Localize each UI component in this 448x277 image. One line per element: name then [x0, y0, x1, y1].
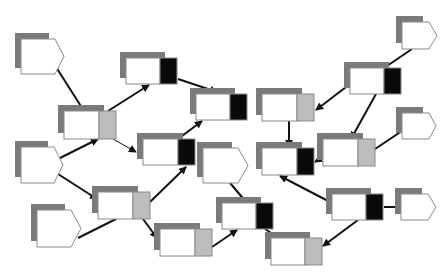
pentagon-shape [37, 210, 81, 247]
process-node-b[interactable] [58, 105, 116, 139]
node-port-gray[interactable] [99, 111, 116, 139]
process-node-f[interactable] [92, 186, 150, 219]
node-port-black[interactable] [297, 148, 314, 175]
process-node-e[interactable] [137, 133, 195, 165]
process-node-p[interactable] [326, 188, 383, 220]
node-port-black[interactable] [366, 194, 383, 220]
process-node-j[interactable] [256, 88, 314, 121]
process-node-k[interactable] [256, 142, 314, 175]
process-node-i[interactable] [216, 197, 273, 229]
node-port-black[interactable] [160, 58, 177, 84]
pentagon-shape [21, 147, 63, 183]
source-node-q[interactable] [395, 188, 436, 220]
node-body [323, 139, 358, 166]
process-node-n[interactable] [317, 133, 375, 166]
node-body [332, 194, 366, 220]
flow-diagram [0, 0, 448, 277]
shapes-layer [15, 16, 437, 265]
node-body [143, 139, 178, 165]
process-node-c[interactable] [120, 52, 177, 84]
pentagon-shape [402, 113, 436, 139]
node-port-gray[interactable] [195, 229, 212, 256]
edge-b-2 [113, 139, 136, 152]
source-node-t[interactable] [31, 204, 81, 247]
node-body [126, 58, 160, 84]
node-port-black[interactable] [178, 139, 195, 165]
pentagon-shape [401, 194, 436, 220]
edge-s-4 [58, 174, 97, 199]
edge-p-20 [323, 220, 358, 246]
source-node-m[interactable] [396, 107, 436, 139]
node-port-black[interactable] [230, 94, 247, 120]
node-body [222, 203, 256, 229]
edge-g-10 [212, 230, 237, 247]
edge-f-8 [150, 167, 186, 202]
process-node-g[interactable] [154, 223, 212, 256]
source-node-s[interactable] [15, 141, 63, 183]
process-node-d[interactable] [190, 88, 247, 120]
pentagon-shape [203, 148, 248, 183]
node-body [98, 192, 133, 219]
process-node-l[interactable] [344, 62, 401, 94]
source-node-a[interactable] [15, 33, 64, 74]
pentagon-shape [402, 22, 437, 49]
process-node-r[interactable] [265, 232, 322, 265]
diagram-svg [0, 0, 448, 277]
node-port-gray[interactable] [133, 192, 150, 219]
edge-l-15 [351, 94, 376, 139]
node-port-gray[interactable] [297, 94, 314, 121]
node-port-gray[interactable] [358, 139, 375, 166]
node-body [271, 238, 305, 265]
edge-b-1 [108, 85, 149, 111]
node-body [160, 229, 195, 256]
edge-s-3 [60, 139, 98, 158]
node-body [262, 94, 297, 121]
node-body [262, 148, 297, 175]
node-port-black[interactable] [256, 203, 273, 229]
node-port-gray[interactable] [305, 238, 322, 265]
edge-a-0 [56, 67, 84, 111]
edge-p-19 [280, 176, 332, 203]
pentagon-shape [21, 39, 64, 74]
source-node-h[interactable] [197, 142, 248, 183]
node-body [350, 68, 384, 94]
node-port-black[interactable] [384, 68, 401, 94]
source-node-o[interactable] [396, 16, 437, 49]
node-body [196, 94, 230, 120]
node-body [64, 111, 99, 139]
edge-t-5 [78, 219, 116, 238]
edge-m-17 [375, 131, 402, 149]
